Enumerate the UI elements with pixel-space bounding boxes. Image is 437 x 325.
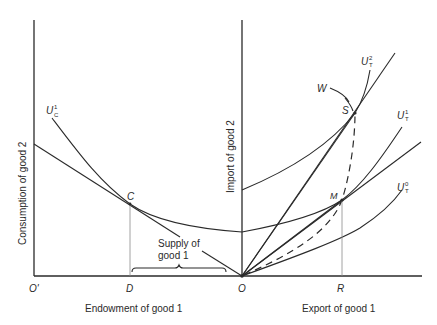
indifference-curve-ut2-lower: [242, 113, 355, 190]
supply-pointer-line: [202, 251, 242, 276]
svg-text:0: 0: [405, 181, 409, 187]
point-c-label: C: [127, 191, 135, 202]
svg-text:U: U: [397, 110, 405, 121]
svg-text:1: 1: [405, 109, 409, 115]
svg-text:U: U: [397, 182, 405, 193]
curve-label-ut2: U 2 T: [361, 55, 373, 68]
indifference-curve-ut0: [242, 190, 402, 276]
terms-of-trade-ray-to-m: [242, 200, 342, 276]
svg-text:U: U: [46, 105, 54, 116]
left-y-axis-label: Consumption of good 2: [17, 141, 28, 245]
point-c-marker: [129, 203, 132, 206]
origin-o-marker: [240, 274, 244, 278]
offer-curve-w-label: W: [317, 83, 328, 94]
indifference-curve-uc1: [52, 118, 242, 232]
supply-annotation-line1: Supply of: [158, 238, 200, 249]
left-x-axis-label: Endowment of good 1: [85, 303, 183, 314]
indifference-curve-ut2-upper: [355, 70, 370, 113]
terms-of-trade-ray-to-s: [242, 113, 355, 276]
point-m-marker: [340, 198, 343, 201]
point-m-label: M: [330, 191, 338, 201]
svg-text:2: 2: [369, 55, 373, 61]
svg-text:U: U: [361, 56, 369, 67]
right-x-axis-label: Export of good 1: [302, 303, 376, 314]
svg-text:T: T: [405, 116, 409, 122]
svg-text:C: C: [54, 112, 59, 118]
supply-brace: [132, 265, 226, 272]
supply-annotation-line2: good 1: [158, 250, 189, 261]
curve-label-uc1: U 1 C: [46, 104, 59, 118]
point-s-label: S: [342, 105, 349, 116]
curve-label-ut1: U 1 T: [397, 109, 409, 122]
trade-diagram: Consumption of good 2 Import of good 2 O…: [0, 0, 437, 325]
origin-prime-label: O': [29, 283, 40, 294]
curve-label-ut0: U 0 T: [397, 181, 409, 194]
tick-d-label: D: [126, 283, 133, 294]
point-s-marker: [353, 111, 356, 114]
tick-r-label: R: [337, 283, 344, 294]
svg-text:T: T: [369, 62, 373, 68]
svg-text:T: T: [405, 188, 409, 194]
right-y-axis-label: Import of good 2: [225, 120, 236, 193]
origin-o-label: O: [238, 283, 246, 294]
budget-line-left: [34, 144, 180, 237]
svg-text:1: 1: [54, 104, 58, 110]
